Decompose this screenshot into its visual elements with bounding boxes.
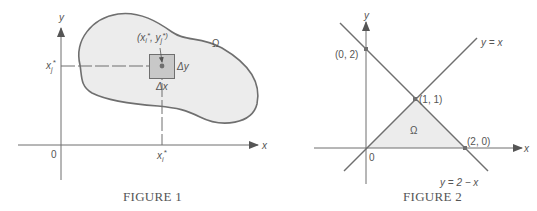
point-0-2 [364,47,368,51]
region-label: Ω [212,38,220,49]
x-axis-label: x [261,140,268,151]
y-tick-label: xj* [45,58,57,74]
region-label: Ω [410,125,418,136]
origin-label: 0 [51,149,57,160]
figure-1: y x 0 Ω (xi*, yj*) xj* xi* Δy Δx FIGURE … [18,12,268,204]
delta-y-label: Δy [176,61,190,72]
figures-canvas: y x 0 Ω (xi*, yj*) xj* xi* Δy Δx FIGURE … [0,0,537,211]
region-omega-triangle [366,99,465,148]
line1-label: y = x [480,37,503,48]
point-label-0-2: (0, 2) [335,49,358,60]
x-tick-label: xi* [156,148,168,163]
figure-2-caption: FIGURE 2 [403,189,462,204]
figure-1-caption: FIGURE 1 [123,189,182,204]
y-axis-label: y [363,10,370,21]
line2-label: y = 2 − x [439,177,479,188]
sample-point [160,64,165,69]
line-y-equals-x [344,38,477,171]
figure-2: y x 0 Ω (0, 2) (1, 1) (2, 0) y = x y = 2… [314,10,530,204]
delta-x-label: Δx [155,81,169,92]
point-1-1 [413,97,417,101]
point-label-1-1: (1, 1) [419,94,442,105]
y-axis-label: y [58,12,65,23]
point-label-2-0: (2, 0) [467,136,490,147]
x-axis-label: x [523,143,530,154]
origin-label: 0 [369,152,375,163]
